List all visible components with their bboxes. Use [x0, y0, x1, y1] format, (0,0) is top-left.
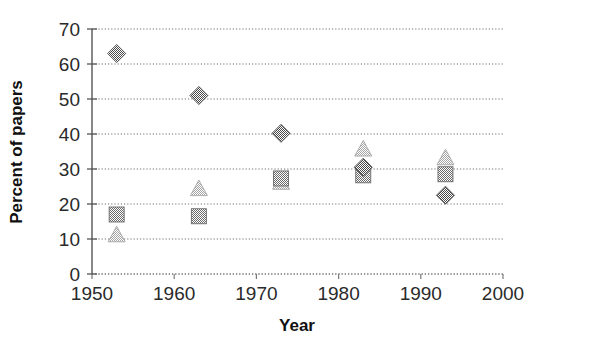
x-tick-label: 1980 — [317, 283, 359, 304]
data-point-square — [191, 209, 206, 224]
y-tick-label: 0 — [69, 264, 80, 285]
y-tick-label: 10 — [59, 229, 80, 250]
y-axis-title: Percent of papers — [7, 80, 26, 224]
x-tick-label: 1960 — [153, 283, 195, 304]
x-axis-title: Year — [279, 316, 315, 335]
data-point-square — [274, 171, 289, 186]
scatter-plot: 010203040506070 195019601970198019902000… — [0, 0, 611, 349]
data-point-square — [109, 207, 124, 222]
x-tick-label: 1950 — [71, 283, 113, 304]
y-tick-label: 70 — [59, 19, 80, 40]
x-tick-label: 1990 — [400, 283, 442, 304]
chart-figure: 010203040506070 195019601970198019902000… — [0, 0, 611, 349]
x-tick-label: 2000 — [482, 283, 524, 304]
y-tick-label: 50 — [59, 89, 80, 110]
data-point-square — [438, 167, 453, 182]
y-tick-label: 30 — [59, 159, 80, 180]
y-tick-label: 20 — [59, 194, 80, 215]
y-tick-label: 60 — [59, 54, 80, 75]
x-tick-label: 1970 — [235, 283, 277, 304]
y-tick-label: 40 — [59, 124, 80, 145]
